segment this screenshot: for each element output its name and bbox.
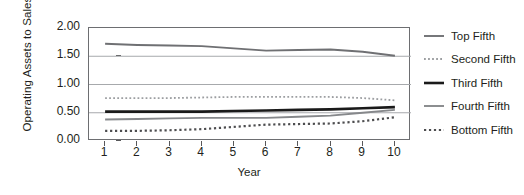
x-tick-mark <box>104 141 105 146</box>
x-axis-title: Year <box>88 166 410 178</box>
legend-label: Third Fifth <box>451 77 503 89</box>
legend-line-swatch-icon <box>424 30 444 42</box>
legend-label: Bottom Fifth <box>451 124 513 136</box>
chart-figure: Operating Assets to Sales 0.000.501.001.… <box>0 0 524 195</box>
chart-legend: Top FifthSecond FifthThird FifthFourth F… <box>424 24 524 142</box>
x-tick-mark <box>394 141 395 146</box>
y-tick-label: 0.50 <box>57 105 80 117</box>
legend-item[interactable]: Fourth Fifth <box>424 95 524 119</box>
legend-label: Second Fifth <box>451 53 516 65</box>
legend-item[interactable]: Third Fifth <box>424 71 524 95</box>
x-tick-label: 3 <box>156 146 182 158</box>
series-line-2 <box>105 107 395 112</box>
series-line-0 <box>105 44 395 56</box>
x-tick-mark <box>201 141 202 146</box>
plot-area <box>88 27 410 140</box>
x-tick-label: 2 <box>123 146 149 158</box>
legend-item[interactable]: Bottom Fifth <box>424 118 524 142</box>
series-line-1 <box>105 97 395 100</box>
x-tick-label: 4 <box>188 146 214 158</box>
x-tick-mark <box>136 141 137 146</box>
x-tick-mark <box>362 141 363 146</box>
y-tick-label: 2.00 <box>57 20 80 32</box>
y-axis-ticks: 0.000.501.001.502.00 <box>28 0 80 195</box>
legend-line-swatch-icon <box>424 100 444 112</box>
x-tick-mark <box>169 141 170 146</box>
y-tick-label: 1.50 <box>57 48 80 60</box>
x-tick-label: 9 <box>349 146 375 158</box>
x-tick-label: 5 <box>220 146 246 158</box>
x-tick-label: 6 <box>252 146 278 158</box>
legend-line-swatch-icon <box>424 53 444 65</box>
plot-lines <box>89 28 411 141</box>
x-tick-mark <box>265 141 266 146</box>
legend-line-swatch-icon <box>424 77 444 89</box>
x-tick-label: 10 <box>381 146 407 158</box>
x-tick-mark <box>330 141 331 146</box>
legend-item[interactable]: Second Fifth <box>424 48 524 72</box>
x-tick-label: 7 <box>284 146 310 158</box>
y-tick-label: 1.00 <box>57 77 80 89</box>
x-tick-label: 1 <box>91 146 117 158</box>
legend-label: Fourth Fifth <box>451 100 510 112</box>
legend-label: Top Fifth <box>451 30 495 42</box>
x-tick-label: 8 <box>317 146 343 158</box>
legend-line-swatch-icon <box>424 124 444 136</box>
x-tick-mark <box>297 141 298 146</box>
y-tick-label: 0.00 <box>57 133 80 145</box>
legend-item[interactable]: Top Fifth <box>424 24 524 48</box>
x-tick-mark <box>233 141 234 146</box>
